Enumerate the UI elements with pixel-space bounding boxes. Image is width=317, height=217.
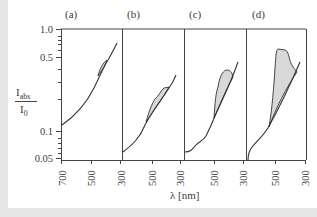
x-tick-300-b: 300	[175, 170, 186, 186]
series-panel-c	[185, 62, 238, 152]
svg-text:I0: I0	[20, 103, 28, 118]
panel-label-a: (a)	[65, 8, 78, 21]
x-tick-300-a: 300	[116, 170, 127, 186]
panel-frames	[61, 29, 307, 161]
series-panel-a	[62, 43, 117, 125]
series-panel-b	[123, 75, 176, 152]
series-panel-d	[248, 49, 300, 160]
x-tick-300-c: 300	[238, 170, 249, 186]
absorption-chart: (a) (b) (c) (d) 1.0 0.5 0.1 0.05	[0, 0, 317, 217]
x-tick-500-d: 500	[270, 170, 281, 186]
ylabel-num-sub: abs	[20, 92, 31, 101]
x-tick-500-b: 500	[147, 170, 158, 186]
panel-label-b: (b)	[127, 8, 140, 21]
y-tick-0.1: 0.1	[40, 126, 53, 137]
y-tick-0.5: 0.5	[40, 52, 53, 63]
panel-label-c: (c)	[189, 8, 202, 21]
x-tick-700: 700	[57, 170, 68, 186]
x-axis-label: λ [nm]	[170, 189, 199, 201]
x-tick-labels: 700 500 300 500 300 500 300 500 300	[57, 170, 311, 186]
x-tick-300-d: 300	[300, 170, 311, 186]
svg-text:Iabs: Iabs	[16, 86, 30, 101]
y-tick-0.05: 0.05	[35, 153, 53, 164]
ylabel-den-sub: 0	[24, 109, 28, 118]
y-axis-label: Iabs I0	[15, 86, 37, 118]
panel-label-d: (d)	[252, 8, 265, 21]
x-tick-500-c: 500	[209, 170, 220, 186]
x-tick-500-a: 500	[86, 170, 97, 186]
y-tick-1.0: 1.0	[40, 24, 53, 35]
